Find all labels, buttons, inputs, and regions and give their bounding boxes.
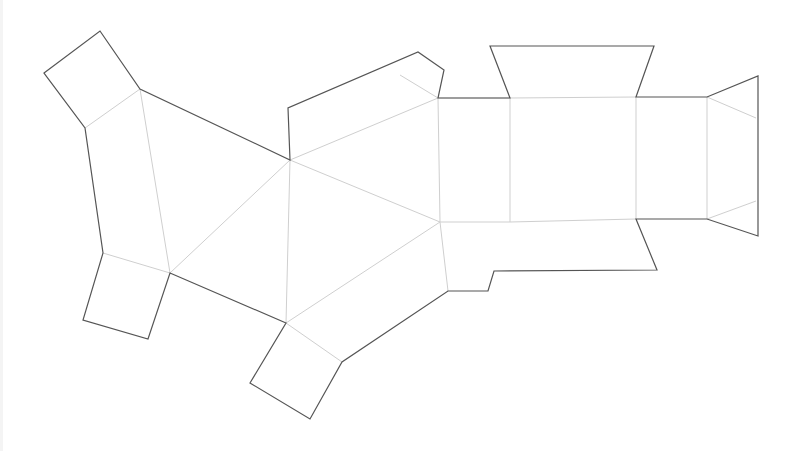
fold-line [707, 97, 756, 118]
fold-line [290, 160, 440, 222]
fold-line [140, 89, 170, 273]
fold-line [170, 160, 290, 273]
fold-line [510, 219, 636, 222]
fold-line [85, 89, 140, 128]
fold-line [286, 160, 290, 323]
fold-line [510, 97, 636, 98]
fold-line [438, 98, 440, 222]
fold-line [286, 323, 342, 362]
fold-line [400, 75, 438, 98]
fold-line [707, 201, 756, 219]
cut-outline [44, 31, 758, 419]
fold-line [103, 253, 170, 273]
fold-line [286, 222, 440, 323]
papercraft-net [0, 0, 802, 451]
fold-line [290, 98, 438, 160]
fold-line [440, 222, 448, 291]
